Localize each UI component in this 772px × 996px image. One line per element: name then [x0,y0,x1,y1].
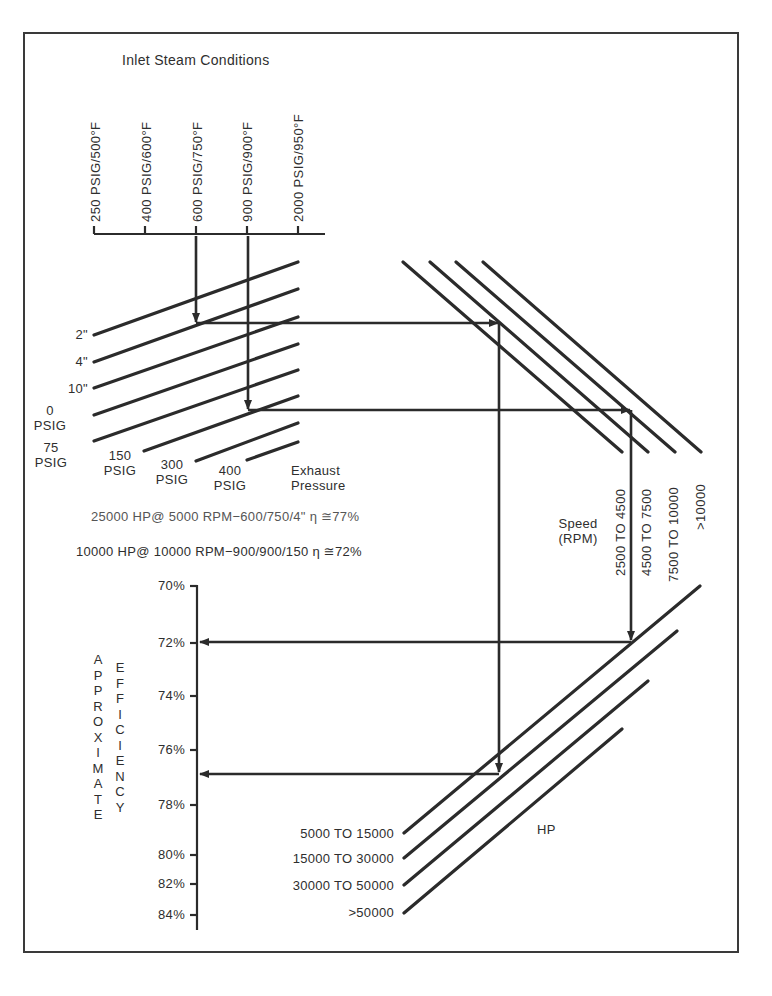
inlet-label-250: 250 PSIG/500°F [88,122,103,222]
exhaust-label-0psig: 0 PSIG [30,403,70,433]
exhaust-75-unit: PSIG [26,455,76,470]
nomograph-lines [0,0,772,996]
speed-title-line2: (RPM) [548,531,608,546]
hp-title: HP [537,822,556,837]
exhaust-0-value: 0 [30,403,70,418]
inlet-label-600: 600 PSIG/750°F [190,122,205,222]
exhaust-label-150psig: 150 PSIG [100,448,140,478]
letter: O [91,714,105,730]
letter: P [91,668,105,684]
example-1-path [196,236,499,774]
inlet-steam-title: Inlet Steam Conditions [122,52,269,68]
eff-tick-82: 82% [140,876,185,891]
hp-range-over-50000: >50000 [240,905,394,920]
eff-tick-74: 74% [140,688,185,703]
speed-title: Speed (RPM) [548,516,608,546]
letter: T [91,792,105,808]
speed-title-line1: Speed [548,516,608,531]
exhaust-label-10in: 10" [50,381,88,396]
letter: R [91,699,105,715]
letter: N [113,769,127,785]
example-1-text: 25000 HP@ 5000 RPM−600/750/4" η ≅77% [91,509,359,524]
exhaust-300-unit: PSIG [152,472,192,487]
letter: C [113,722,127,738]
eff-tick-84: 84% [140,907,185,922]
exhaust-pressure-title: Exhaust Pressure [291,463,345,493]
inlet-label-2000: 2000 PSIG/950°F [291,114,306,222]
letter: E [113,660,127,676]
eff-tick-72: 72% [140,635,185,650]
efficiency-label: E F F I C I E N C Y [113,660,127,815]
letter: E [91,807,105,823]
hp-lines [404,586,700,913]
speed-range-7500-10000: 7500 TO 10000 [666,487,681,582]
eff-tick-76: 76% [140,742,185,757]
eff-tick-78: 78% [140,797,185,812]
approximate-label: A P P R O X I M A T E [91,652,105,823]
letter: E [113,753,127,769]
example-2-text: 10000 HP@ 10000 RPM−900/900/150 η ≅72% [76,544,362,559]
letter: I [113,738,127,754]
inlet-label-400: 400 PSIG/600°F [139,122,154,222]
letter: P [91,683,105,699]
exhaust-title-line2: Pressure [291,478,345,493]
exhaust-label-2in: 2" [50,327,88,342]
hp-range-30000-50000: 30000 TO 50000 [240,878,394,893]
letter: I [113,707,127,723]
exhaust-150-unit: PSIG [100,463,140,478]
hp-range-15000-30000: 15000 TO 30000 [240,851,394,866]
speed-range-over-10000: >10000 [693,484,708,530]
exhaust-label-300psig: 300 PSIG [152,457,192,487]
speed-range-2500-4500: 2500 TO 4500 [613,489,628,576]
speed-lines [403,262,701,452]
exhaust-label-75psig: 75 PSIG [26,440,76,470]
speed-range-4500-7500: 4500 TO 7500 [639,489,654,576]
exhaust-label-4in: 4" [50,354,88,369]
letter: M [91,761,105,777]
letter: C [113,784,127,800]
letter: F [113,691,127,707]
letter: A [91,652,105,668]
hp-range-5000-15000: 5000 TO 15000 [240,826,394,841]
letter: I [91,745,105,761]
letter: X [91,730,105,746]
exhaust-0-unit: PSIG [30,418,70,433]
example-2-path [200,236,631,642]
letter: F [113,676,127,692]
efficiency-axis [190,585,197,930]
exhaust-300-value: 300 [152,457,192,472]
exhaust-label-400psig: 400 PSIG [210,463,250,493]
exhaust-400-unit: PSIG [210,478,250,493]
exhaust-75-value: 75 [26,440,76,455]
exhaust-400-value: 400 [210,463,250,478]
inlet-label-900: 900 PSIG/900°F [240,122,255,222]
exhaust-title-line1: Exhaust [291,463,345,478]
eff-tick-70: 70% [140,578,185,593]
letter: A [91,776,105,792]
exhaust-150-value: 150 [100,448,140,463]
eff-tick-80: 80% [140,847,185,862]
inlet-axis [94,226,325,234]
letter: Y [113,800,127,816]
